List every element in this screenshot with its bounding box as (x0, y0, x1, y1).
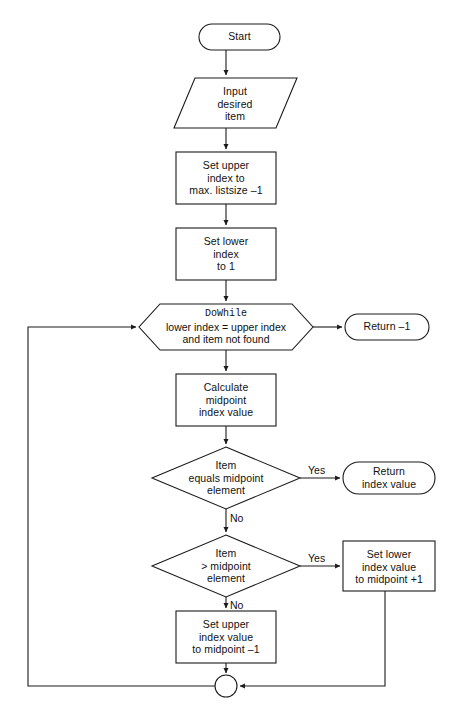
label-decision-item-equals: Item equals midpoint element (156, 459, 296, 497)
label-set-upper-value-line3: to midpoint –1 (176, 643, 276, 656)
label-set-upper-line1: Set upper (176, 159, 276, 172)
label-calculate-line2: midpoint (176, 394, 276, 407)
label-set-lower-index: Set lower index to 1 (176, 235, 276, 273)
label-return-minus-one: Return –1 (345, 320, 429, 333)
label-set-upper-value-line2: index value (176, 631, 276, 644)
edge-label-equals-no: No (230, 512, 243, 524)
label-input-desired-item: Input desired item (185, 85, 285, 123)
flowchart-canvas: Start Input desired item Set upper index… (0, 0, 451, 727)
label-input-line2: desired (185, 98, 285, 111)
label-dowhile-keyword: DoWhile (111, 308, 341, 321)
label-set-upper-index: Set upper index to max. listsize –1 (176, 159, 276, 197)
label-set-lower-value-line1: Set lower (343, 548, 435, 561)
edge-label-equals-yes: Yes (308, 464, 325, 476)
edge-label-greater-yes: Yes (308, 552, 325, 564)
label-calculate-line3: index value (176, 406, 276, 419)
label-equals-line3: element (156, 484, 296, 497)
label-calculate-midpoint: Calculate midpoint index value (176, 381, 276, 419)
label-set-lower-line1: Set lower (176, 235, 276, 248)
label-start: Start (199, 30, 280, 43)
label-set-lower-line3: to 1 (176, 260, 276, 273)
shape-junction-connector (215, 675, 237, 697)
label-dowhile: DoWhile lower index = upper index and it… (111, 308, 341, 346)
label-set-upper-line3: max. listsize –1 (176, 184, 276, 197)
edge-label-greater-no: No (230, 599, 243, 611)
label-dowhile-line3: and item not found (111, 333, 341, 346)
label-set-upper-value-line1: Set upper (176, 618, 276, 631)
label-dowhile-line2: lower index = upper index (111, 321, 341, 334)
label-equals-line2: equals midpoint (156, 472, 296, 485)
label-set-lower-value-line3: to midpoint +1 (343, 573, 435, 586)
label-set-upper-line2: index to (176, 172, 276, 185)
label-set-lower-line2: index (176, 248, 276, 261)
label-set-lower-index-value: Set lower index value to midpoint +1 (343, 548, 435, 586)
label-decision-item-greater: Item > midpoint element (156, 547, 296, 585)
label-greater-line1: Item (156, 547, 296, 560)
label-set-upper-index-value: Set upper index value to midpoint –1 (176, 618, 276, 656)
label-return-index-line2: index value (343, 478, 435, 491)
label-return-index-value: Return index value (343, 465, 435, 490)
label-equals-line1: Item (156, 459, 296, 472)
label-return-index-line1: Return (343, 465, 435, 478)
label-set-lower-value-line2: index value (343, 561, 435, 574)
label-calculate-line1: Calculate (176, 381, 276, 394)
label-input-line1: Input (185, 85, 285, 98)
label-greater-line2: > midpoint (156, 560, 296, 573)
label-greater-line3: element (156, 572, 296, 585)
label-input-line3: item (185, 110, 285, 123)
